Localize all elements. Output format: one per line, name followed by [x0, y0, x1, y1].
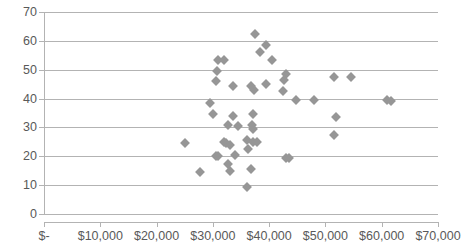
x-axis-tick [269, 222, 270, 227]
x-axis-label: $10,000 [78, 230, 123, 243]
data-point[interactable] [242, 182, 252, 192]
data-point[interactable] [233, 121, 243, 131]
x-axis-tick [44, 222, 45, 227]
data-point[interactable] [230, 150, 240, 160]
x-axis-tick [100, 222, 101, 227]
x-axis-tick [325, 222, 326, 227]
y-axis-label: 70 [3, 6, 37, 19]
x-axis-label: $30,000 [190, 230, 235, 243]
plot-area [44, 12, 438, 214]
y-axis-label: 30 [3, 121, 37, 134]
gridline-0 [44, 214, 438, 215]
gridline-40 [44, 99, 438, 100]
y-axis-tick [39, 99, 44, 100]
y-axis-label: 40 [3, 93, 37, 106]
data-point[interactable] [228, 111, 238, 121]
x-axis-tick [213, 222, 214, 227]
gridline-20 [44, 156, 438, 157]
data-point[interactable] [329, 130, 339, 140]
data-point[interactable] [211, 76, 221, 86]
x-axis-tick [382, 222, 383, 227]
x-axis-label: $60,000 [359, 230, 404, 243]
x-axis-label: $40,000 [247, 230, 292, 243]
data-point[interactable] [180, 138, 190, 148]
scatter-chart: 010203040506070 $-$10,000$20,000$30,000$… [0, 0, 461, 251]
data-point[interactable] [278, 86, 288, 96]
x-axis-label: $20,000 [134, 230, 179, 243]
x-axis-label: $- [38, 230, 49, 243]
data-point[interactable] [267, 55, 277, 65]
data-point[interactable] [346, 72, 356, 82]
y-axis-tick [39, 41, 44, 42]
data-point[interactable] [208, 109, 218, 119]
data-point[interactable] [225, 140, 235, 150]
y-axis-label: 20 [3, 150, 37, 163]
data-point[interactable] [246, 164, 256, 174]
data-point[interactable] [248, 109, 258, 119]
data-point[interactable] [309, 95, 319, 105]
data-point[interactable] [329, 72, 339, 82]
y-axis-tick [39, 185, 44, 186]
x-axis-label: $70,000 [415, 230, 460, 243]
x-axis-tick [157, 222, 158, 227]
data-point[interactable] [250, 29, 260, 39]
gridline-60 [44, 41, 438, 42]
data-point[interactable] [228, 81, 238, 91]
gridline-50 [44, 70, 438, 71]
y-axis-tick [39, 214, 44, 215]
y-axis-label: 50 [3, 64, 37, 77]
data-point[interactable] [261, 79, 271, 89]
x-axis-line [44, 222, 438, 223]
y-axis-tick [39, 70, 44, 71]
gridline-10 [44, 185, 438, 186]
y-axis-tick [39, 127, 44, 128]
y-axis-label: 0 [3, 208, 37, 221]
data-point[interactable] [212, 66, 222, 76]
data-point[interactable] [331, 112, 341, 122]
data-point[interactable] [255, 47, 265, 57]
data-point[interactable] [219, 55, 229, 65]
y-axis-label: 10 [3, 179, 37, 192]
y-axis-labels: 010203040506070 [0, 0, 37, 251]
x-axis-label: $50,000 [303, 230, 348, 243]
data-point[interactable] [291, 95, 301, 105]
gridline-70 [44, 12, 438, 13]
y-axis-line [44, 12, 45, 214]
x-axis-tick [438, 222, 439, 227]
y-axis-tick [39, 156, 44, 157]
y-axis-label: 60 [3, 35, 37, 48]
data-point[interactable] [196, 167, 206, 177]
y-axis-tick [39, 12, 44, 13]
